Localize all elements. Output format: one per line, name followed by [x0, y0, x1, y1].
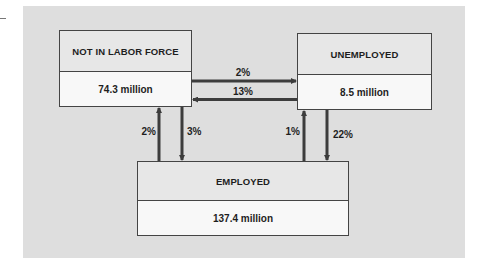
node-value: 74.3 million	[60, 72, 191, 106]
flow-label-unemployed-to-employed: 22%	[333, 129, 363, 141]
node-value: 8.5 million	[298, 75, 431, 109]
flow-label-unemployed-to-nlf: 13%	[228, 86, 258, 98]
flow-label-nlf-to-employed: 3%	[187, 126, 217, 138]
margin-dash	[0, 18, 6, 19]
node-employed: EMPLOYED 137.4 million	[137, 161, 349, 236]
flow-label-nlf-to-unemployed: 2%	[228, 67, 258, 79]
node-not-in-labor-force: NOT IN LABOR FORCE 74.3 million	[59, 30, 192, 107]
flow-label-employed-to-nlf: 2%	[126, 126, 156, 138]
node-title: NOT IN LABOR FORCE	[60, 31, 191, 72]
node-unemployed: UNEMPLOYED 8.5 million	[297, 33, 432, 110]
node-value: 137.4 million	[138, 201, 348, 235]
node-title: EMPLOYED	[138, 162, 348, 201]
diagram-stage: NOT IN LABOR FORCE 74.3 million UNEMPLOY…	[0, 0, 481, 274]
node-title: UNEMPLOYED	[298, 34, 431, 75]
flow-label-employed-to-unemployed: 1%	[270, 126, 300, 138]
